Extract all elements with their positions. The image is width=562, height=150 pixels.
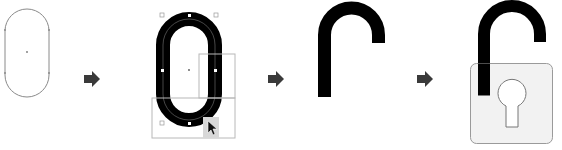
step-4-padlock-icon xyxy=(471,6,553,144)
arrow-right-icon xyxy=(268,71,284,87)
diagram-canvas xyxy=(0,0,562,150)
step-2-thick-pill xyxy=(160,13,218,125)
arrow-right-icon xyxy=(417,71,433,87)
step-1-outline-pill xyxy=(4,9,50,97)
cursor-icon xyxy=(203,117,219,138)
arrow-right-icon xyxy=(84,71,100,87)
step-3-shackle-arch xyxy=(325,8,379,97)
diagram-stage xyxy=(0,0,562,150)
